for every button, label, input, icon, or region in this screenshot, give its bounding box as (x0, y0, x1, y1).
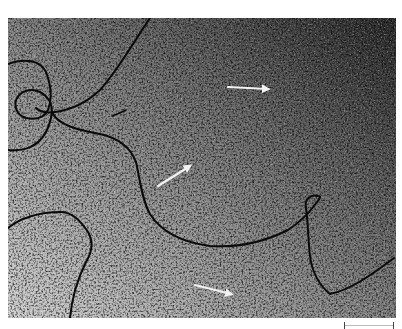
scale-bar (344, 322, 394, 329)
electron-micrograph (8, 18, 396, 318)
micrograph-image (8, 18, 396, 318)
scale-bar-tick-left (344, 322, 345, 329)
scale-bar-line (344, 325, 394, 326)
scale-bar-tick-right (393, 322, 394, 329)
